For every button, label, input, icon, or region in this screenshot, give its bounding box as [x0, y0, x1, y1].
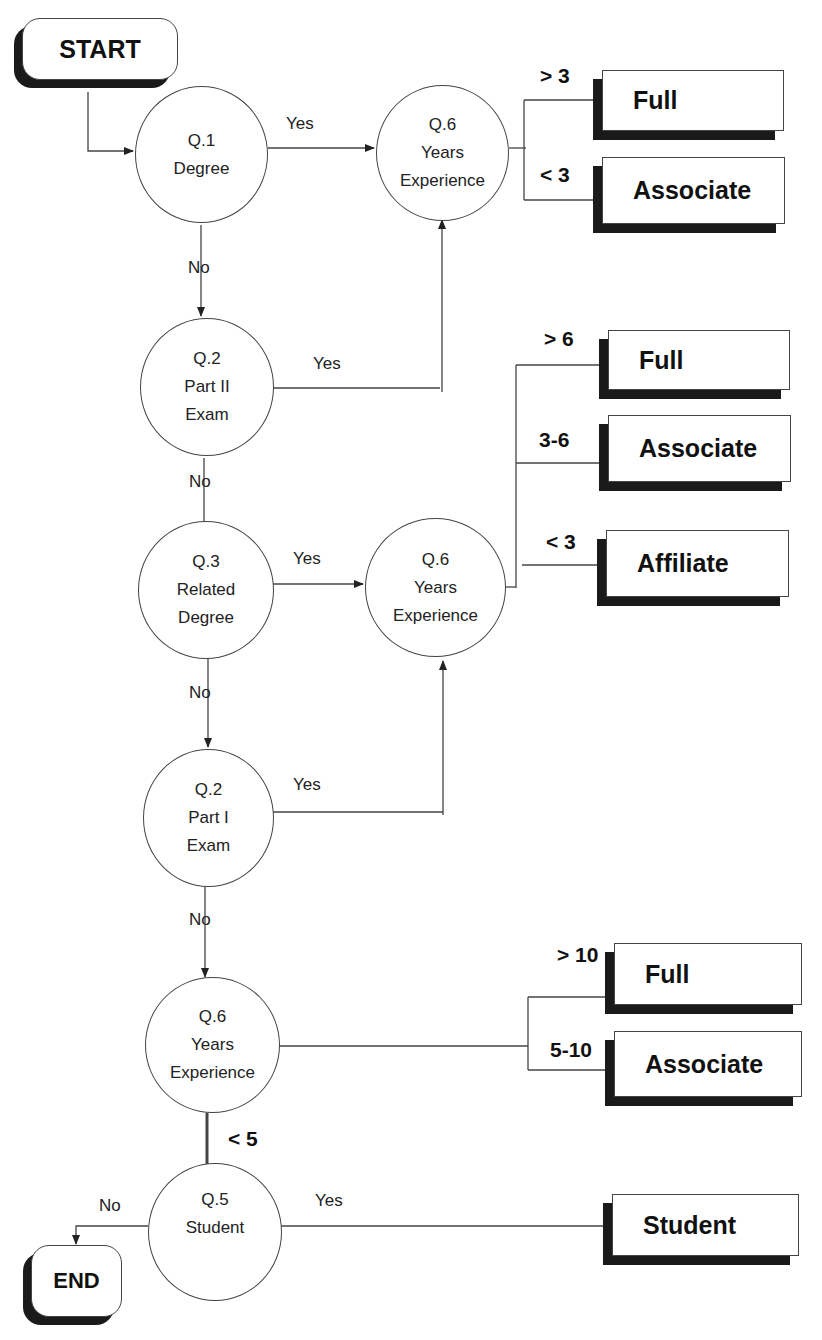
node-id: Q.3 — [192, 548, 219, 576]
condition-lt3-2: < 3 — [546, 530, 576, 554]
node-line2: Exam — [185, 401, 228, 429]
outcome-associate-3: Associate — [614, 1031, 802, 1097]
node-id: Q.6 — [422, 546, 449, 574]
outcome-label: Affiliate — [637, 549, 729, 578]
condition-gt6: > 6 — [544, 327, 574, 351]
decision-q5-student: Q.5 Student — [148, 1163, 282, 1301]
outcome-full-2: Full — [608, 330, 790, 390]
condition-3-6: 3-6 — [539, 428, 569, 452]
edge-label-q2a-yes: Yes — [313, 354, 341, 374]
outcome-full-3: Full — [614, 943, 802, 1005]
node-line1: Part II — [184, 373, 229, 401]
node-id: Q.2 — [193, 345, 220, 373]
condition-gt10: > 10 — [557, 943, 598, 967]
edge-label-q5-yes: Yes — [315, 1191, 343, 1211]
condition-gt3: > 3 — [540, 64, 570, 88]
edge-label-q6c-lt5: < 5 — [228, 1127, 258, 1151]
decision-q2-part2-exam: Q.2 Part II Exam — [140, 318, 274, 456]
edge-label-q5-no: No — [99, 1196, 121, 1216]
node-text: Student — [186, 1214, 245, 1242]
node-line2: Experience — [170, 1059, 255, 1087]
outcome-label: Associate — [645, 1050, 763, 1079]
node-id: Q.6 — [429, 111, 456, 139]
outcome-associate-2: Associate — [608, 415, 791, 482]
decision-q1-degree: Q.1 Degree — [135, 86, 268, 223]
outcome-associate-1: Associate — [602, 157, 785, 224]
condition-lt3: < 3 — [540, 163, 570, 187]
outcome-full-1: Full — [602, 70, 784, 131]
node-id: Q.5 — [201, 1186, 228, 1214]
outcome-label: Full — [639, 346, 683, 375]
node-id: Q.2 — [195, 776, 222, 804]
decision-q6-years-experience-3: Q.6 Years Experience — [145, 977, 280, 1113]
decision-q6-years-experience-1: Q.6 Years Experience — [376, 85, 509, 221]
outcome-label: Associate — [633, 176, 751, 205]
edge-label-q3-no: No — [189, 683, 211, 703]
condition-5-10: 5-10 — [550, 1038, 592, 1062]
outcome-label: Associate — [639, 434, 757, 463]
outcome-label: Student — [643, 1211, 736, 1240]
edge-label-q1-no: No — [188, 258, 210, 278]
node-line2: Experience — [400, 167, 485, 195]
edge-label-q1-yes: Yes — [286, 114, 314, 134]
node-line1: Part I — [188, 804, 229, 832]
node-id: Q.6 — [199, 1003, 226, 1031]
start-label: START — [59, 35, 140, 64]
start-terminal: START — [22, 18, 178, 80]
edge-label-q2a-no: No — [189, 472, 211, 492]
edge-label-q2b-no: No — [189, 910, 211, 930]
node-line1: Years — [421, 139, 464, 167]
edge-label-q3-yes: Yes — [293, 549, 321, 569]
node-line2: Experience — [393, 602, 478, 630]
node-line2: Exam — [187, 832, 230, 860]
node-line2: Degree — [178, 604, 234, 632]
decision-q2-part1-exam: Q.2 Part I Exam — [143, 749, 274, 887]
node-line1: Related — [177, 576, 236, 604]
outcome-label: Full — [645, 960, 689, 989]
node-id: Q.1 — [188, 127, 215, 155]
node-line1: Years — [414, 574, 457, 602]
edge-label-q2b-yes: Yes — [293, 775, 321, 795]
outcome-affiliate: Affiliate — [606, 530, 789, 597]
end-label: END — [53, 1268, 99, 1294]
decision-q3-related-degree: Q.3 Related Degree — [138, 521, 274, 659]
node-text: Degree — [174, 155, 230, 183]
end-terminal: END — [31, 1245, 122, 1317]
outcome-student: Student — [612, 1194, 799, 1256]
node-line1: Years — [191, 1031, 234, 1059]
outcome-label: Full — [633, 86, 677, 115]
decision-q6-years-experience-2: Q.6 Years Experience — [365, 518, 506, 657]
